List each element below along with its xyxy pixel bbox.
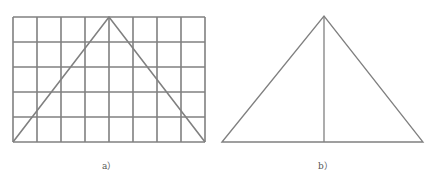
triangle-figure-b <box>222 16 423 142</box>
caption-b: b） <box>318 159 333 172</box>
caption-a: a） <box>102 159 116 172</box>
grid-figure-a <box>13 17 205 142</box>
diagram-canvas <box>0 0 428 182</box>
